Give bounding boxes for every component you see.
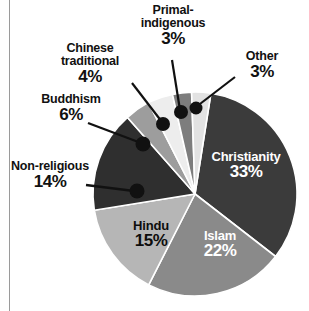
label-christianity-pct: 33% [205,163,287,180]
label-chinese-traditional-pct: 4% [48,68,132,85]
label-buddhism: Buddhism 6% [33,93,109,123]
label-primal-indigenous-pct: 3% [128,30,218,47]
label-buddhism-name: Buddhism [33,93,109,106]
label-primal-indigenous-line2: indigenous [128,17,218,30]
dot-primal-indigenous [174,105,188,119]
label-hindu: Hindu 15% [120,219,182,250]
label-buddhism-pct: 6% [33,106,109,123]
label-chinese-traditional: Chinese traditional 4% [48,42,132,85]
label-islam: Islam 22% [188,229,252,260]
label-other: Other 3% [232,50,292,80]
chart-page: Primal- indigenous 3% Chinese traditiona… [0,0,309,311]
dot-other [190,102,203,115]
label-hindu-pct: 15% [120,232,182,249]
label-christianity: Christianity 33% [205,150,287,181]
dot-buddhism [136,137,151,152]
label-hindu-name: Hindu [120,219,182,232]
label-non-religious-pct: 14% [10,173,90,190]
dot-non-religious [130,184,145,199]
label-islam-pct: 22% [188,242,252,259]
pie-chart: Primal- indigenous 3% Chinese traditiona… [0,0,309,311]
label-chinese-traditional-line2: traditional [48,55,132,68]
label-primal-indigenous-line1: Primal- [128,4,218,17]
label-other-pct: 3% [232,63,292,80]
label-other-name: Other [232,50,292,63]
dot-chinese-traditional [156,117,170,131]
label-chinese-traditional-line1: Chinese [48,42,132,55]
label-islam-name: Islam [188,229,252,242]
label-non-religious: Non-religious 14% [10,160,90,190]
label-primal-indigenous: Primal- indigenous 3% [128,4,218,47]
label-christianity-name: Christianity [205,150,287,163]
pie-slices [93,92,297,296]
label-non-religious-name: Non-religious [10,160,90,173]
